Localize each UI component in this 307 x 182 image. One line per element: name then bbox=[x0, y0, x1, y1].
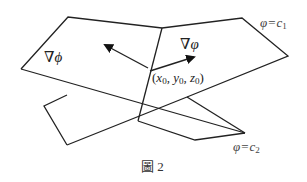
gradient-arrow-varphi bbox=[150, 57, 194, 71]
surface-c2-right-outline bbox=[187, 97, 245, 133]
surface-c2-left-outline bbox=[44, 95, 67, 145]
point-label: (x0, y0, z0) bbox=[152, 71, 204, 86]
surface-edge-right-diagonal bbox=[67, 97, 187, 145]
surface-c2-label: φ=c2 bbox=[233, 140, 260, 155]
surface-c1-label: φ=c1 bbox=[260, 16, 287, 31]
level-surfaces-figure: ∇ϕ ∇φ (x0, y0, z0) φ=c1 φ=c2 圖 2 bbox=[0, 0, 307, 182]
grad-varphi-label: ∇φ bbox=[180, 37, 199, 52]
gradient-arrow-phi bbox=[105, 45, 148, 68]
figure-caption: 圖 2 bbox=[141, 156, 164, 175]
grad-phi-label: ∇ϕ bbox=[44, 50, 62, 65]
surface-c2-bottom-outline bbox=[138, 121, 245, 140]
